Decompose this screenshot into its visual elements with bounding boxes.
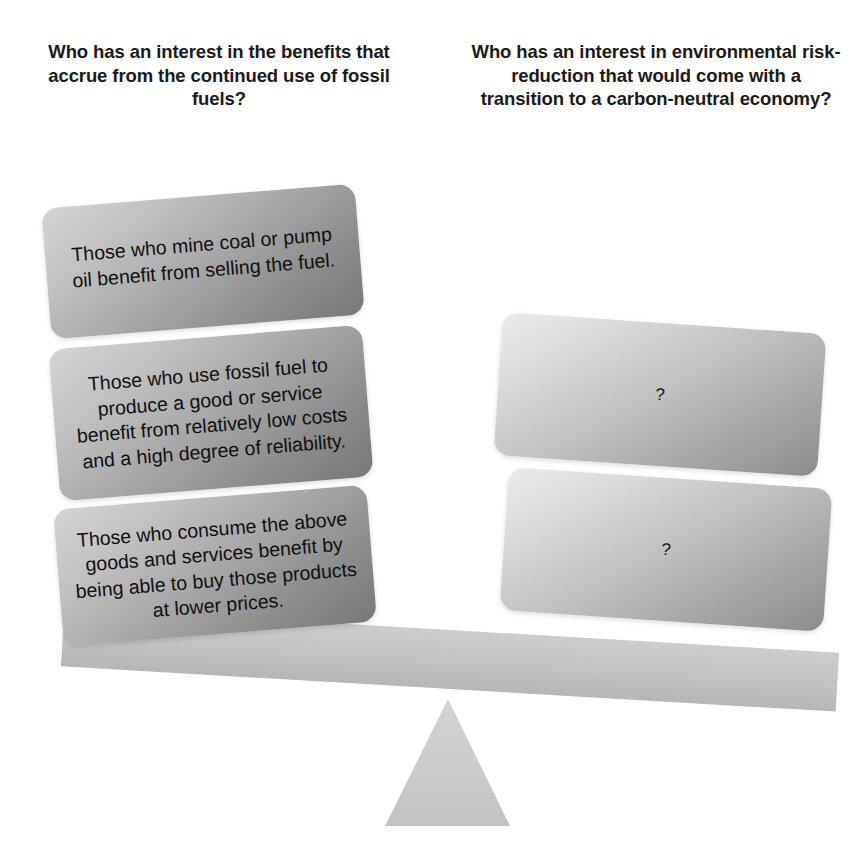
left-benefit-box-1-text: Those who mine coal or pump oil benefit …	[44, 220, 361, 296]
right-question-box-1[interactable]: ?	[494, 312, 827, 477]
heading-right-question: Who has an interest in environmental ris…	[470, 40, 842, 111]
left-benefit-box-1[interactable]: Those who mine coal or pump oil benefit …	[41, 184, 364, 340]
right-question-box-2-text: ?	[504, 529, 829, 571]
left-benefit-box-3-text: Those who consume the above goods and se…	[55, 504, 376, 631]
right-question-box-2[interactable]: ?	[500, 467, 833, 632]
heading-left-question: Who has an interest in the benefits that…	[33, 40, 405, 111]
left-benefit-box-2[interactable]: Those who use fossil fuel to produce a g…	[48, 325, 373, 502]
left-benefit-box-3[interactable]: Those who consume the above goods and se…	[53, 485, 377, 647]
fulcrum-triangle	[383, 697, 511, 828]
left-benefit-box-2-text: Those who use fossil fuel to produce a g…	[50, 350, 371, 477]
right-question-box-1-text: ?	[498, 374, 823, 416]
diagram-canvas: Who has an interest in the benefits that…	[0, 0, 862, 841]
